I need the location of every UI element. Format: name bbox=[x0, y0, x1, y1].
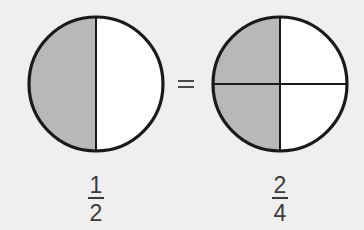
numerator: 1 bbox=[81, 174, 111, 196]
denominator: 4 bbox=[265, 202, 295, 224]
numerator: 2 bbox=[265, 174, 295, 196]
equals-icon bbox=[178, 80, 194, 88]
fraction-one-half: 1 2 bbox=[81, 174, 111, 224]
shaded-half-left bbox=[29, 17, 96, 151]
fraction-two-quarters: 2 4 bbox=[265, 174, 295, 224]
circle-two-quarters bbox=[213, 17, 347, 151]
denominator: 2 bbox=[81, 202, 111, 224]
circle-one-half bbox=[29, 17, 163, 151]
equivalent-fractions-diagram bbox=[0, 0, 364, 230]
